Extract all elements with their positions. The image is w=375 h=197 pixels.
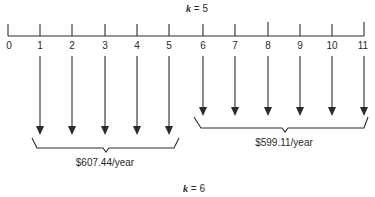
arrowhead-4 — [133, 126, 141, 135]
arrowhead-1 — [36, 126, 44, 135]
tick-label-9: 9 — [297, 41, 303, 51]
arrowhead-11 — [360, 107, 368, 116]
bottom-k-label: k = 6 — [183, 184, 205, 194]
arrowhead-9 — [296, 107, 304, 116]
arrowhead-7 — [231, 107, 239, 116]
tick-label-5: 5 — [166, 41, 172, 51]
tick-label-2: 2 — [69, 41, 75, 51]
arrowhead-10 — [328, 107, 336, 116]
brace-group-2 — [194, 117, 368, 132]
k-variable: k — [183, 183, 188, 194]
tick-label-3: 3 — [102, 41, 108, 51]
tick-label-0: 0 — [6, 41, 12, 51]
arrowhead-8 — [264, 107, 272, 116]
group-2-amount: $599.11/year — [255, 138, 313, 148]
group-1-amount: $607.44/year — [76, 158, 134, 168]
arrowhead-5 — [165, 126, 173, 135]
tick-label-6: 6 — [200, 41, 206, 51]
timeline-graphic — [0, 0, 375, 197]
tick-label-7: 7 — [232, 41, 238, 51]
tick-label-8: 8 — [265, 41, 271, 51]
arrowhead-3 — [101, 126, 109, 135]
arrowhead-2 — [68, 126, 76, 135]
equals-sign: = — [191, 183, 197, 194]
k-value: 6 — [199, 183, 205, 194]
arrowhead-6 — [199, 107, 207, 116]
tick-label-4: 4 — [134, 41, 140, 51]
tick-label-10: 10 — [326, 41, 337, 51]
tick-label-1: 1 — [37, 41, 43, 51]
tick-label-11: 11 — [358, 41, 368, 51]
brace-group-1 — [32, 138, 179, 152]
